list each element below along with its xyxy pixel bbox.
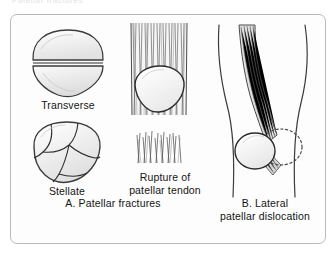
figure-stellate-fracture: [29, 119, 105, 185]
label-rupture-of-patellar-tendon: Rupture of patellar tendon: [115, 171, 215, 196]
quadriceps-tendon-band: [239, 25, 277, 143]
ruptured-tendon-stump: [137, 131, 181, 163]
label-stellate: Stellate: [21, 185, 113, 198]
illustration-plate: Transverse Stellate: [10, 14, 326, 244]
figure-transverse-fracture: [27, 27, 109, 99]
figure-patellar-tendon-rupture: [127, 23, 199, 179]
panel-caption-b: B. Lateral patellar dislocation: [207, 197, 323, 222]
displaced-patella: [235, 133, 275, 169]
clipped-header-text: Patellar fractures: [12, 0, 83, 5]
label-transverse: Transverse: [21, 99, 115, 112]
figure-lateral-patellar-dislocation: [211, 23, 319, 199]
patella-inferior-fragment: [33, 66, 103, 97]
panel-caption-a: A. Patellar fractures: [25, 197, 201, 210]
